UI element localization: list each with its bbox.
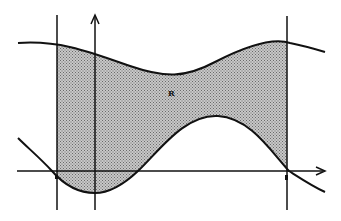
shaded-region-r [18, 41, 325, 193]
region-diagram: R [0, 0, 341, 221]
intersection-marker-right [285, 175, 288, 180]
intersection-marker-left [55, 175, 58, 179]
region-label: R [168, 88, 175, 98]
